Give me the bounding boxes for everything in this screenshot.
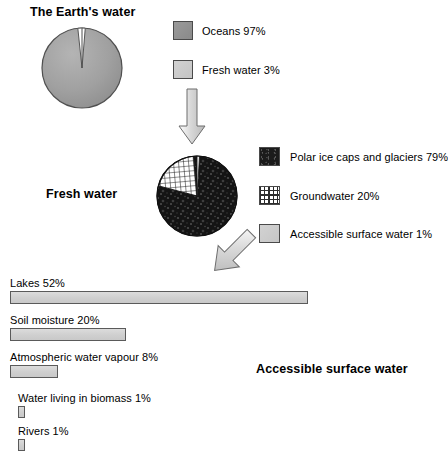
bar-atmospheric-water-vapour xyxy=(10,365,58,378)
bar-label-soil-moisture: Soil moisture 20% xyxy=(10,314,100,326)
bar-label-lakes: Lakes 52% xyxy=(10,277,65,289)
bar-soil-moisture xyxy=(10,328,126,341)
legend-label-groundwater: Groundwater 20% xyxy=(290,190,379,202)
section-title-fresh-water: Fresh water xyxy=(46,187,117,201)
legend-swatch-polar-ice-caps xyxy=(259,147,280,166)
arrow-earth-to-fresh-icon xyxy=(176,88,212,146)
bar-label-atmospheric-water-vapour: Atmospheric water vapour 8% xyxy=(10,351,158,363)
legend-label-accessible-surface-water: Accessible surface water 1% xyxy=(290,228,432,240)
legend-label-oceans: Oceans 97% xyxy=(202,25,265,37)
bar-lakes xyxy=(10,291,308,304)
section-title-accessible-surface-water: Accessible surface water xyxy=(256,362,408,376)
legend-swatch-groundwater xyxy=(259,186,280,205)
pie-chart-earth-water xyxy=(41,26,123,110)
legend-swatch-oceans xyxy=(173,21,193,40)
bar-rivers xyxy=(18,439,25,451)
bar-label-rivers: Rivers 1% xyxy=(18,425,69,437)
bar-label-water-living-in-biomass: Water living in biomass 1% xyxy=(18,392,151,404)
legend-label-fresh-water: Fresh water 3% xyxy=(202,64,280,76)
page-title-earth-water: The Earth's water xyxy=(30,5,135,19)
legend-label-polar-ice-caps: Polar ice caps and glaciers 79% xyxy=(290,151,448,163)
legend-swatch-fresh-water xyxy=(173,60,193,79)
bar-water-living-in-biomass xyxy=(18,406,25,418)
arrow-fresh-to-surface-icon xyxy=(198,222,268,282)
